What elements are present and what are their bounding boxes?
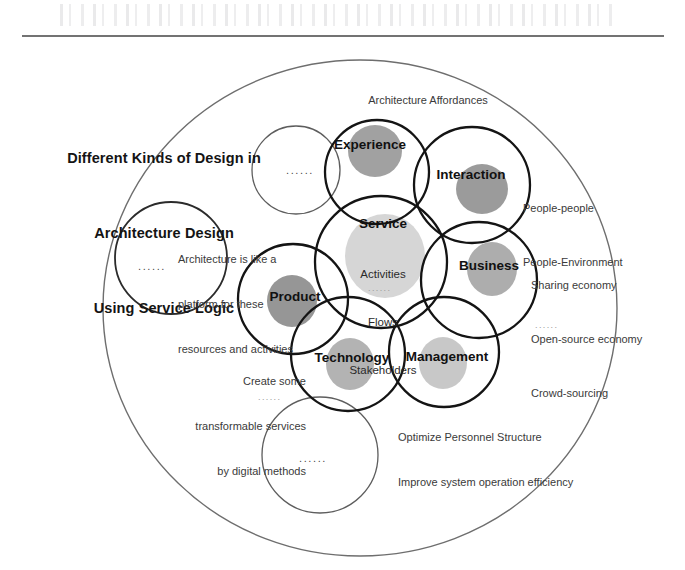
diagram-figure: Different Kinds of Design in Architectur…: [0, 0, 685, 570]
annotation-management-line-1: Optimize Personnel Structure: [398, 430, 573, 445]
service-item-stakeholders: Stakeholders: [349, 362, 416, 378]
label-management: Management: [406, 349, 489, 364]
annotation-interaction-line-1: People-people: [523, 201, 623, 216]
annotation-technology-line-2: transformable services: [188, 419, 306, 434]
figure-title-line-1: Different Kinds of Design in: [28, 146, 300, 171]
label-interaction: Interaction: [436, 167, 505, 182]
annotation-platform-line-1: Architecture is like a: [178, 252, 293, 267]
annotation-business-line-3: Crowd-sourcing: [531, 386, 642, 401]
service-ellipsis: ......: [368, 283, 391, 293]
annotation-business-line-2: Open-source economy: [531, 332, 642, 347]
annotation-technology-ellipsis: ......: [258, 392, 281, 402]
annotation-management-ellipsis: ......: [400, 432, 423, 442]
service-item-list: Activities Flows Stakeholders: [349, 234, 416, 410]
annotation-architecture-affordances: Architecture Affordances: [368, 93, 488, 108]
annotation-management: Optimize Personnel Structure Improve sys…: [398, 400, 573, 520]
annotation-technology: Create some transformable services by di…: [188, 344, 306, 509]
placeholder-bottom-dots: ......: [299, 452, 327, 464]
annotation-business-ellipsis: ......: [535, 320, 558, 330]
label-business: Business: [459, 258, 519, 273]
service-item-flows: Flows: [349, 314, 416, 330]
placeholder-top-dots: ......: [286, 164, 314, 176]
label-experience: Experience: [334, 137, 406, 152]
annotation-technology-line-1: Create some: [188, 374, 306, 389]
placeholder-left-dots: ......: [138, 260, 166, 272]
annotation-technology-line-3: by digital methods: [188, 464, 306, 479]
annotation-management-line-2: Improve system operation efficiency: [398, 475, 573, 490]
annotation-business-line-1: Sharing economy: [531, 278, 642, 293]
service-item-activities: Activities: [349, 266, 416, 282]
label-service: Service: [359, 216, 407, 231]
annotation-platform-line-2: platform for these: [178, 297, 293, 312]
